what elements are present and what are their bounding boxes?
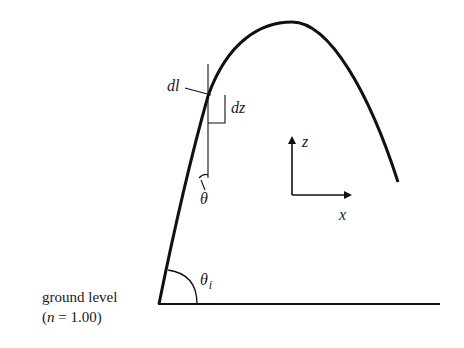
- theta-i-arc: [168, 270, 197, 304]
- theta-leader-line: [201, 180, 205, 190]
- z-axis-label: z: [302, 134, 308, 150]
- dl-label: dl: [167, 78, 179, 94]
- refractive-index-label: (n = 1.00): [42, 310, 102, 325]
- theta-arc: [199, 174, 208, 178]
- x-axis-label: x: [339, 207, 346, 223]
- dz-label: dz: [231, 100, 245, 116]
- ray-path-curve: [159, 22, 398, 304]
- dz-triangle: [208, 95, 225, 123]
- theta-i-label: θi: [200, 272, 211, 288]
- theta-i-symbol: θ: [200, 271, 208, 288]
- theta-label: θ: [200, 191, 208, 207]
- dl-leader-line: [185, 88, 211, 95]
- refractive-index-symbol: n: [47, 309, 55, 325]
- ground-level-label: ground level: [42, 290, 117, 305]
- theta-i-subscript: i: [209, 278, 212, 292]
- refractive-index-value: = 1.00): [55, 309, 102, 325]
